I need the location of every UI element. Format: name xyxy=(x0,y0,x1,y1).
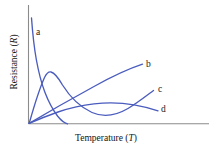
plot-area xyxy=(0,0,212,153)
x-axis-label: Temperature (T) xyxy=(0,133,212,143)
y-axis-label-suffix: ) xyxy=(9,34,19,37)
curve-label-b: b xyxy=(146,60,151,70)
y-axis-label-prefix: Resistance ( xyxy=(9,43,19,89)
curve-label-d: d xyxy=(161,105,166,115)
curve-label-a: a xyxy=(36,28,40,38)
x-axis-label-prefix: Temperature ( xyxy=(75,133,128,143)
y-axis-label-symbol: R xyxy=(9,38,19,44)
curve-label-c: c xyxy=(158,85,162,95)
resistance-temperature-figure: a b c d Temperature (T) Resistance (R) xyxy=(0,0,212,153)
y-axis-label: Resistance (R) xyxy=(9,7,19,117)
x-axis-label-suffix: ) xyxy=(134,133,137,143)
